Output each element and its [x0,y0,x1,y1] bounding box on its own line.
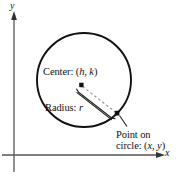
center-label: Center: (h, k) [43,66,97,77]
point-label-line1: Point on [116,129,151,140]
center-point-dot [79,83,83,87]
x-axis-label: x [165,148,169,159]
point-label-line2: circle: (x, y) [116,140,165,151]
y-axis-label: y [10,1,14,12]
point-on-circle-label: Point on circle: (x, y) [116,129,165,152]
y-axis-arrowhead [11,11,17,20]
radius-label-var-r: r [79,102,83,113]
circle-point-dot [115,111,120,116]
center-label-prefix: Center: ( [43,66,79,77]
point-leader-line [120,116,128,127]
radius-label-prefix: Radius: [45,102,79,113]
center-label-suffix: ) [94,66,97,77]
circle-diagram-figure: y x Center: (h, k) Radius: r Point on ci… [0,0,178,176]
point-label-prefix: circle: ( [116,140,147,151]
point-label-suffix: ) [162,140,165,151]
x-axis-arrowhead [156,152,165,158]
radius-label: Radius: r [45,102,83,113]
